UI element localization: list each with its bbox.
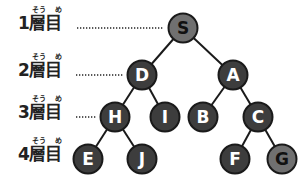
node-F: F	[221, 145, 250, 174]
node-label: I	[162, 107, 168, 127]
tree-nodes: SDAHIBCEJFG	[74, 14, 297, 174]
node-H: H	[101, 103, 130, 132]
node-G: G	[268, 145, 297, 174]
node-E: E	[74, 145, 103, 174]
node-J: J	[128, 145, 157, 174]
node-label: G	[275, 149, 289, 169]
tree-edges	[88, 28, 282, 159]
node-I: I	[151, 103, 180, 132]
tree-diagram: SDAHIBCEJFG	[0, 0, 305, 179]
node-label: B	[197, 107, 210, 127]
node-label: E	[82, 149, 94, 169]
node-label: J	[138, 149, 145, 169]
node-A: A	[219, 61, 248, 90]
node-label: C	[252, 107, 264, 127]
node-label: S	[177, 18, 189, 38]
node-label: H	[108, 107, 122, 127]
node-label: F	[229, 149, 241, 169]
node-label: A	[226, 65, 240, 85]
node-C: C	[244, 103, 273, 132]
node-D: D	[128, 61, 157, 90]
node-label: D	[135, 65, 149, 85]
node-S: S	[169, 14, 198, 43]
node-B: B	[189, 103, 218, 132]
